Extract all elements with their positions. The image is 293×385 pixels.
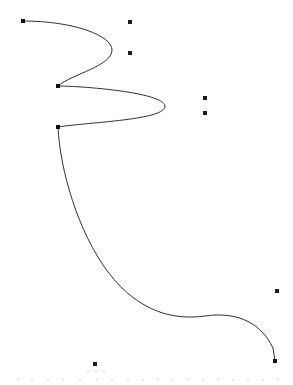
scatter-point-3-marker[interactable]: [203, 96, 207, 100]
baseline-speck-11: [171, 379, 173, 381]
spline-layer: [23, 21, 275, 361]
baseline-speck-9: [142, 379, 144, 381]
scatter-point-1-marker[interactable]: [128, 20, 132, 24]
vector-drawing: [0, 0, 293, 385]
baseline-speck-layer: [17, 370, 279, 381]
end-node-marker[interactable]: [273, 359, 277, 363]
baseline-speck-14: [217, 378, 219, 380]
scatter-point-4-marker[interactable]: [203, 111, 207, 115]
node-marker-layer: [21, 19, 277, 363]
scatter-point-2-marker[interactable]: [128, 51, 132, 55]
baseline-speck-7: [111, 379, 113, 381]
baseline-speck-6: [96, 378, 98, 380]
baseline-speck-20: [95, 370, 97, 372]
baseline-speck-18: [277, 378, 279, 380]
baseline-speck-1: [17, 378, 19, 380]
baseline-speck-12: [187, 378, 189, 380]
scatter-layer: [93, 20, 279, 366]
baseline-speck-5: [79, 379, 81, 381]
spline-curve-path[interactable]: [23, 21, 275, 361]
baseline-speck-15: [232, 379, 234, 381]
cusp-node-upper-marker[interactable]: [56, 84, 60, 88]
cusp-node-lower-marker[interactable]: [56, 125, 60, 129]
baseline-speck-21: [103, 370, 105, 372]
baseline-speck-17: [262, 379, 264, 381]
baseline-speck-3: [47, 379, 49, 381]
baseline-speck-10: [157, 378, 159, 380]
baseline-speck-13: [202, 379, 204, 381]
baseline-speck-4: [62, 378, 64, 380]
scatter-point-5-marker[interactable]: [275, 289, 279, 293]
baseline-speck-16: [247, 378, 249, 380]
baseline-speck-2: [31, 378, 33, 380]
baseline-speck-8: [127, 378, 129, 380]
start-node-marker[interactable]: [21, 19, 25, 23]
vector-canvas-root: [0, 0, 293, 385]
baseline-speck-19: [87, 370, 89, 372]
scatter-point-6-marker[interactable]: [93, 362, 97, 366]
